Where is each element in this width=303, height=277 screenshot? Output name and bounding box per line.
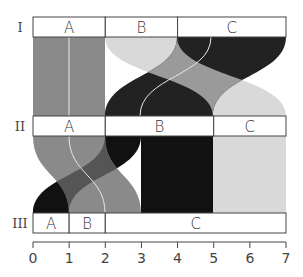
level-label: III (12, 216, 27, 231)
level-label: II (15, 119, 25, 134)
partition-label: B (137, 19, 147, 37)
partition-label: A (46, 215, 56, 233)
partition-flow-diagram: IABCIIABCIIIABC 01234567 (0, 0, 303, 277)
partition-label: B (155, 118, 165, 136)
axis-tick-label: 1 (65, 250, 74, 266)
level-III: IIIABC (12, 213, 286, 233)
partition-label: C (227, 19, 237, 37)
level-label: I (17, 20, 22, 35)
flows-level-1-to-2 (33, 37, 286, 116)
axis-tick-label: 5 (209, 250, 218, 266)
flow-B-to-C (141, 136, 213, 213)
axis-tick-label: 3 (137, 250, 146, 266)
partition-label: A (64, 19, 74, 37)
level-I: IABC (17, 17, 286, 37)
axis-tick-label: 2 (101, 250, 110, 266)
partition-label: A (64, 118, 74, 136)
level-II: IIABC (15, 116, 286, 136)
axis-tick-label: 6 (245, 250, 254, 266)
flows-level-2-to-3 (33, 136, 286, 213)
partition-label: C (190, 215, 200, 233)
partition-label: C (245, 118, 255, 136)
axis-tick-label: 4 (173, 250, 182, 266)
partition-label: B (82, 215, 92, 233)
flow-C-to-C (213, 136, 286, 213)
x-axis: 01234567 (29, 242, 291, 266)
axis-tick-label: 0 (29, 250, 38, 266)
axis-tick-label: 7 (282, 250, 291, 266)
